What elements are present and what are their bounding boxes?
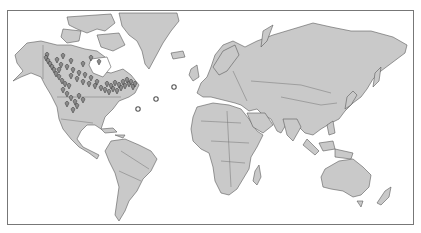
map-canvas	[8, 11, 414, 225]
ring-markers[interactable]	[136, 85, 176, 111]
ring-marker-icon[interactable]	[172, 85, 176, 89]
world-map[interactable]	[7, 10, 414, 225]
landmasses	[13, 13, 407, 221]
ring-marker-icon[interactable]	[136, 107, 140, 111]
ring-marker-icon[interactable]	[154, 97, 158, 101]
